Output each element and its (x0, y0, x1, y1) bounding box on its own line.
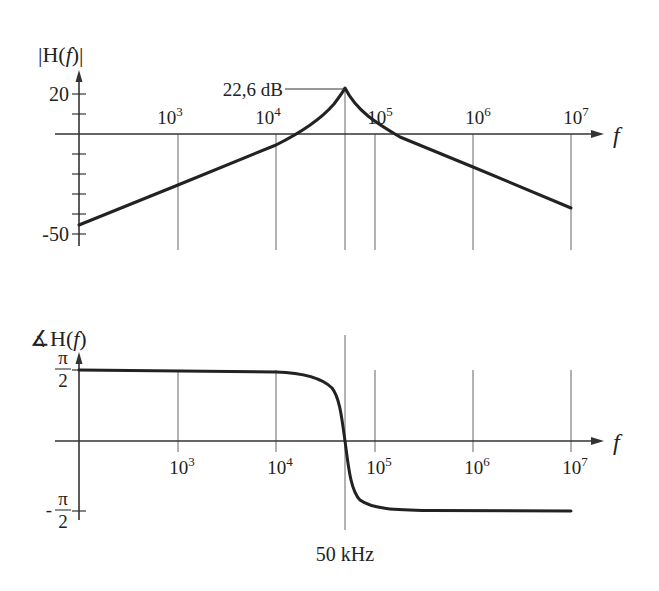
mag-title: |H(f)| (38, 42, 83, 67)
phase-y-arrow-icon (76, 352, 83, 364)
mag-x-axis-label: f (613, 122, 623, 148)
svg-text:107: 107 (562, 454, 588, 478)
magnitude-panel: |H(f)| 20 -50 22,6 dB f 103 104 105 106 … (38, 42, 623, 250)
phase-x-axis-label: f (613, 429, 623, 455)
mag-x-arrow-icon (591, 130, 604, 138)
frequency-marker-label: 50 kHz (316, 543, 374, 565)
svg-text:103: 103 (157, 104, 183, 128)
svg-text:π: π (58, 347, 68, 368)
svg-text:2: 2 (58, 511, 68, 532)
svg-text:106: 106 (464, 454, 490, 478)
mag-y-label-neg50: -50 (42, 223, 69, 245)
bode-plot: |H(f)| 20 -50 22,6 dB f 103 104 105 106 … (0, 0, 659, 591)
mag-y-label-20: 20 (49, 83, 69, 105)
mag-y-arrow-icon (76, 70, 83, 82)
phase-panel: ∡H(f) π 2 - π 2 f 103 104 105 106 107 50… (30, 326, 623, 565)
svg-text:106: 106 (465, 104, 491, 128)
phase-y-label-pi2: π 2 (55, 347, 71, 391)
magnitude-curve (79, 88, 571, 225)
svg-text:2: 2 (58, 370, 68, 391)
svg-text:105: 105 (366, 454, 392, 478)
svg-text:104: 104 (267, 454, 293, 478)
svg-text:107: 107 (563, 104, 589, 128)
svg-text:π: π (58, 488, 68, 509)
svg-text:-: - (46, 499, 52, 520)
mag-x-tick-labels: 103 104 105 106 107 (157, 104, 589, 128)
phase-y-label-neg-pi2: - π 2 (46, 488, 71, 532)
phase-x-tick-labels: 103 104 105 106 107 (169, 454, 588, 478)
peak-label: 22,6 dB (223, 79, 283, 100)
svg-text:105: 105 (367, 104, 393, 128)
svg-text:104: 104 (255, 104, 281, 128)
phase-x-arrow-icon (591, 437, 604, 445)
svg-text:103: 103 (169, 454, 195, 478)
